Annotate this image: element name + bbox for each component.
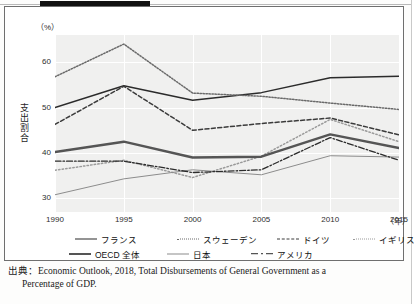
page-right-edge [411,0,412,304]
legend-row-2: OECD 全体日本アメリカ [55,246,403,261]
legend-swatch-icon [75,235,97,243]
legend-label: イギリス [379,233,415,245]
y-axis-tick-label: 60 [31,57,51,66]
legend-swatch-icon [277,235,299,243]
source-line-1: 出典：Economic Outlook, 2018, Total Disburs… [8,266,326,276]
legend-label: アメリカ [277,248,313,260]
legend-swatch-icon [69,250,91,258]
y-axis-title: 支出割合 [19,103,28,143]
legend-item-スウェーデン[interactable]: スウェーデン [177,231,257,246]
x-axis-unit-label: （年） [386,215,410,226]
x-axis-tick-label: 1995 [115,215,133,224]
legend-row-1: フランススウェーデンドイツイギリス [55,231,403,246]
series-line-フランス [55,76,399,107]
x-axis-tick-label: 1990 [46,215,64,224]
x-axis-tick-label: 2010 [321,215,339,224]
legend-label: スウェーデン [203,233,257,245]
y-axis-tick-label: 40 [31,148,51,157]
series-line-イギリス [55,119,399,177]
source-note: 出典：Economic Outlook, 2018, Total Disburs… [8,265,406,290]
legend-item-フランス[interactable]: フランス [75,231,137,246]
x-axis-tick-label: 2000 [184,215,202,224]
legend-item-日本[interactable]: 日本 [167,246,211,261]
legend-item-ドイツ[interactable]: ドイツ [277,231,330,246]
legend-swatch-icon [251,250,273,258]
y-axis-tick-label: 30 [31,193,51,202]
legend-item-イギリス[interactable]: イギリス [353,231,415,246]
legend-label: OECD 全体 [95,248,140,260]
source-line-2: Percentage of GDP. [22,278,406,291]
chart-lines [55,35,399,212]
y-axis-unit-label: （%） [36,21,59,32]
series-line-OECD 全体 [55,134,399,157]
figure-box: （%） 支出割合 30405060 1990199520002005201020… [4,6,404,261]
chart-legend: フランススウェーデンドイツイギリス OECD 全体日本アメリカ [55,231,403,261]
legend-label: フランス [101,233,137,245]
gridline-vertical [399,35,400,212]
legend-label: 日本 [193,248,211,260]
legend-item-アメリカ[interactable]: アメリカ [251,246,313,261]
legend-swatch-icon [167,250,189,258]
y-axis-tick-label: 50 [31,103,51,112]
series-line-ドイツ [55,86,399,135]
x-axis-tick-label: 2005 [252,215,270,224]
legend-label: ドイツ [303,233,330,245]
legend-swatch-icon [177,235,199,243]
legend-swatch-icon [353,235,375,243]
legend-item-OECD 全体[interactable]: OECD 全体 [69,246,140,261]
